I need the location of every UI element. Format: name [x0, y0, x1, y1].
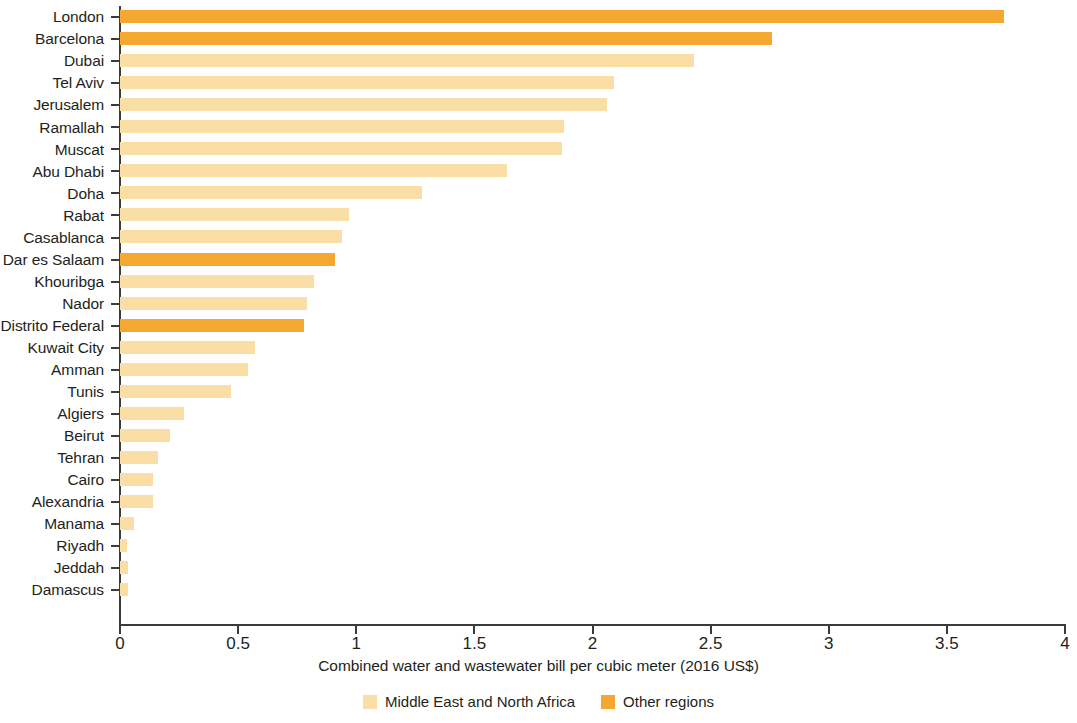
category-label: Riyadh [0, 535, 112, 557]
bar [120, 32, 772, 45]
category-tick [111, 567, 120, 569]
value-axis-tick [237, 624, 239, 634]
bar-row [120, 226, 1065, 248]
category-tick [111, 303, 120, 305]
category-label: Nador [0, 293, 112, 315]
category-label: Dar es Salaam [0, 249, 112, 271]
category-label: London [0, 6, 112, 28]
bar [120, 539, 127, 552]
value-axis-tick-label: 3 [824, 635, 833, 652]
category-tick [111, 457, 120, 459]
bar-rows [120, 6, 1065, 624]
category-tick [111, 281, 120, 283]
value-axis-tick [355, 624, 357, 634]
category-tick [111, 170, 120, 172]
bar-row [120, 425, 1065, 447]
bar-row [120, 6, 1065, 28]
value-axis-tick [710, 624, 712, 634]
bar [120, 473, 153, 486]
bar [120, 319, 304, 332]
category-tick [111, 16, 120, 18]
category-tick [111, 523, 120, 525]
category-label: Jeddah [0, 557, 112, 579]
bar [120, 76, 614, 89]
bar-row [120, 491, 1065, 513]
bar [120, 583, 128, 596]
bar [120, 253, 335, 266]
bar [120, 451, 158, 464]
value-axis-tick [473, 624, 475, 634]
category-tick [111, 192, 120, 194]
bar [120, 164, 507, 177]
value-axis-tick-label: 2.5 [699, 635, 723, 652]
bar-row [120, 160, 1065, 182]
category-label: Dubai [0, 50, 112, 72]
category-label: Ramallah [0, 116, 112, 138]
bar [120, 297, 307, 310]
category-label: Tehran [0, 447, 112, 469]
bar-row [120, 94, 1065, 116]
value-axis-tick [828, 624, 830, 634]
category-tick [111, 237, 120, 239]
bar-row [120, 513, 1065, 535]
bar [120, 98, 607, 111]
category-label: Abu Dhabi [0, 160, 112, 182]
bar-row [120, 557, 1065, 579]
bar [120, 561, 128, 574]
value-axis-tick-label: 2 [588, 635, 597, 652]
bar [120, 230, 342, 243]
bar-row [120, 182, 1065, 204]
bar-row [120, 315, 1065, 337]
bar-row [120, 50, 1065, 72]
bar [120, 341, 255, 354]
bar [120, 517, 134, 530]
legend-label: Other regions [623, 694, 714, 709]
bar-row [120, 72, 1065, 94]
category-tick [111, 325, 120, 327]
category-tick [111, 214, 120, 216]
category-label: Distrito Federal [0, 315, 112, 337]
bar-row [120, 204, 1065, 226]
value-axis-tick [1064, 624, 1066, 634]
bar [120, 54, 694, 67]
bar [120, 275, 314, 288]
value-axis-tick [592, 624, 594, 634]
category-label: Muscat [0, 138, 112, 160]
category-tick [111, 148, 120, 150]
bar [120, 429, 170, 442]
bar-row [120, 381, 1065, 403]
category-tick [111, 369, 120, 371]
x-axis-title: Combined water and wastewater bill per c… [0, 658, 1077, 674]
category-tick [111, 82, 120, 84]
bar [120, 495, 153, 508]
category-tick [111, 435, 120, 437]
bar [120, 186, 422, 199]
category-label: Kuwait City [0, 337, 112, 359]
chart-legend: Middle East and North AfricaOther region… [0, 694, 1077, 709]
value-axis-tick-label: 0 [115, 635, 124, 652]
bar [120, 120, 564, 133]
value-axis-tick-label: 1 [352, 635, 361, 652]
category-tick [111, 259, 120, 261]
bar-chart: LondonBarcelonaDubaiTel AvivJerusalemRam… [0, 0, 1077, 723]
legend-label: Middle East and North Africa [385, 694, 575, 709]
category-tick [111, 479, 120, 481]
value-axis-tick-label: 4 [1060, 635, 1069, 652]
bar [120, 10, 1004, 23]
bar [120, 407, 184, 420]
category-label: Tel Aviv [0, 72, 112, 94]
category-axis-labels: LondonBarcelonaDubaiTel AvivJerusalemRam… [0, 6, 112, 624]
bar-row [120, 138, 1065, 160]
bar-row [120, 337, 1065, 359]
bar-row [120, 28, 1065, 50]
category-label: Amman [0, 359, 112, 381]
category-tick [111, 391, 120, 393]
category-tick [111, 60, 120, 62]
category-tick [111, 413, 120, 415]
legend-swatch-icon [601, 695, 615, 709]
category-label: Casablanca [0, 226, 112, 248]
bar-row [120, 359, 1065, 381]
category-label: Manama [0, 513, 112, 535]
bar-row [120, 293, 1065, 315]
bar [120, 142, 562, 155]
